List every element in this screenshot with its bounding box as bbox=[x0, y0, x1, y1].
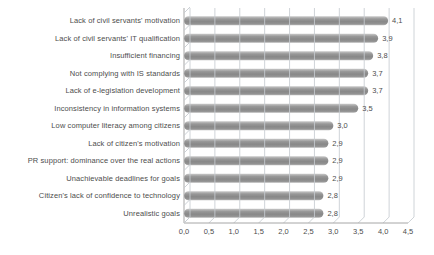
x-tick-label: 3,5 bbox=[347, 227, 369, 236]
value-label: 3,9 bbox=[382, 34, 392, 43]
bar bbox=[184, 34, 378, 43]
x-tick-label: 0,5 bbox=[198, 227, 220, 236]
bar-chart: Lack of civil servants' motivation4,1Lac… bbox=[0, 0, 434, 255]
x-tick-label: 1,0 bbox=[223, 227, 245, 236]
category-axis-tick bbox=[184, 130, 190, 136]
x-tick-label: 1,5 bbox=[248, 227, 270, 236]
category-label: Insufficient financing bbox=[0, 51, 180, 60]
category-axis-tick bbox=[184, 112, 190, 118]
bar bbox=[184, 104, 358, 113]
x-tick-label: 0,0 bbox=[173, 227, 195, 236]
value-label: 4,1 bbox=[392, 16, 402, 25]
category-label: Not complying with IS standards bbox=[0, 69, 180, 78]
category-label: Lack of citizen's motivation bbox=[0, 139, 180, 148]
category-label: Unachievable deadlines for goals bbox=[0, 174, 180, 183]
bar bbox=[184, 174, 328, 183]
screenshot-root: Lack of civil servants' motivation4,1Lac… bbox=[0, 0, 434, 255]
value-label: 3,7 bbox=[372, 69, 382, 78]
bar bbox=[184, 121, 333, 130]
x-tick-label: 4,5 bbox=[397, 227, 419, 236]
category-axis-tick bbox=[184, 7, 190, 13]
bar bbox=[184, 139, 328, 148]
x-tick-label: 3,0 bbox=[322, 227, 344, 236]
category-axis-tick bbox=[184, 200, 190, 206]
category-label: Citizen's lack of confidence to technolo… bbox=[0, 191, 180, 200]
gridline bbox=[408, 8, 414, 223]
category-axis-tick bbox=[184, 95, 190, 101]
value-label: 2,9 bbox=[332, 174, 342, 183]
bar bbox=[184, 86, 368, 95]
value-label: 2,9 bbox=[332, 139, 342, 148]
bar bbox=[184, 51, 373, 60]
value-label: 2,9 bbox=[332, 156, 342, 165]
category-label: Low computer literacy among citizens bbox=[0, 121, 180, 130]
x-tick-label: 2,0 bbox=[273, 227, 295, 236]
category-axis-tick bbox=[184, 147, 190, 153]
category-axis-tick bbox=[184, 60, 190, 66]
category-axis-tick bbox=[184, 77, 190, 83]
value-label: 3,0 bbox=[337, 121, 347, 130]
value-label: 2,8 bbox=[327, 209, 337, 218]
category-label: Unrealistic goals bbox=[0, 209, 180, 218]
value-label: 3,8 bbox=[377, 51, 387, 60]
category-label: Inconsistency in information systems bbox=[0, 104, 180, 113]
category-axis-tick bbox=[184, 217, 190, 223]
category-axis-tick bbox=[184, 42, 190, 48]
x-tick-label: 2,5 bbox=[297, 227, 319, 236]
category-label: PR support: dominance over the real acti… bbox=[0, 156, 180, 165]
bar bbox=[184, 156, 328, 165]
value-label: 3,5 bbox=[362, 104, 372, 113]
category-axis-tick bbox=[184, 25, 190, 31]
bar bbox=[184, 191, 323, 200]
value-label: 2,8 bbox=[327, 191, 337, 200]
category-label: Lack of e-legislation development bbox=[0, 86, 180, 95]
bar bbox=[184, 209, 323, 218]
category-axis-tick bbox=[184, 182, 190, 188]
x-tick-label: 4,0 bbox=[372, 227, 394, 236]
value-label: 3,7 bbox=[372, 86, 382, 95]
category-axis-tick bbox=[184, 165, 190, 171]
category-label: Lack of civil servants' motivation bbox=[0, 16, 180, 25]
bar bbox=[184, 69, 368, 78]
category-label: Lack of civil servants' IT qualification bbox=[0, 34, 180, 43]
